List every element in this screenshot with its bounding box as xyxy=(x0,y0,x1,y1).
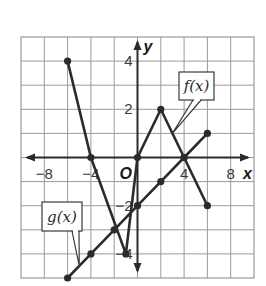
data-point xyxy=(181,154,188,161)
data-point xyxy=(204,130,211,137)
y-axis-label: y xyxy=(143,38,154,55)
data-point xyxy=(134,154,141,161)
data-point xyxy=(134,202,141,209)
y-tick-label: 2 xyxy=(124,100,132,117)
data-point xyxy=(157,178,164,185)
data-point xyxy=(64,274,71,281)
x-tick-label: 8 xyxy=(227,165,235,182)
data-point xyxy=(157,106,164,113)
data-point xyxy=(64,58,71,65)
x-axis-label: x xyxy=(242,165,253,182)
x-tick-label: −8 xyxy=(36,165,53,182)
data-point xyxy=(122,250,129,257)
callout-label: f(x) xyxy=(183,77,210,95)
coordinate-plane: xyO−8−44842−2−4 f(x)g(x) xyxy=(0,0,266,286)
data-point xyxy=(87,154,94,161)
y-tick-label: 4 xyxy=(124,52,132,69)
x-tick-label: 4 xyxy=(180,165,188,182)
data-point xyxy=(87,250,94,257)
data-point xyxy=(111,226,118,233)
origin-label: O xyxy=(120,165,133,182)
callout-label: g(x) xyxy=(47,208,77,226)
data-point xyxy=(204,202,211,209)
